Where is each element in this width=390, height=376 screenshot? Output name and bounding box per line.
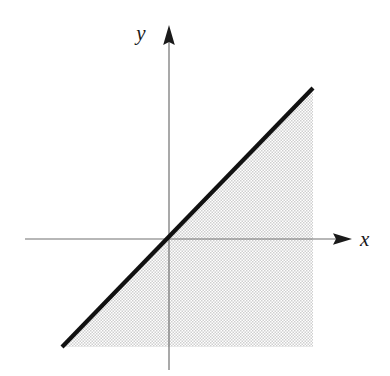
y-axis-arrowhead-icon <box>163 25 175 45</box>
coordinate-plane-diagram: y x <box>0 0 390 376</box>
y-axis-label: y <box>134 21 146 45</box>
figure-root: y x <box>0 0 390 376</box>
x-axis-label: x <box>359 227 370 251</box>
